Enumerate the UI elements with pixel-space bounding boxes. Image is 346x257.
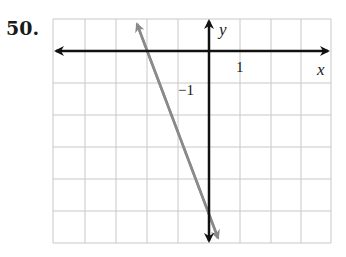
y-tick-label-neg1: −1 [178,82,194,98]
x-axis-label: x [316,60,325,79]
x-tick-label-1: 1 [236,59,244,75]
y-axis-label: y [217,20,227,39]
grid [53,19,331,243]
coordinate-plane: y x 1 −1 [0,0,346,257]
